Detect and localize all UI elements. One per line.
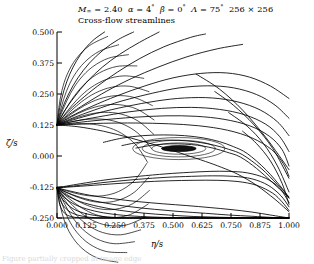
streamline-canvas (57, 32, 289, 218)
figure-caption-cropped: Figure partially cropped at image edge (2, 255, 312, 264)
x-tick-label: 0.375 (133, 221, 155, 230)
lambda-symbol: Λ (191, 4, 197, 14)
y-tick-label: 0.250 (32, 90, 54, 99)
y-tick-label: 0.500 (32, 28, 54, 37)
streamline (57, 98, 289, 136)
figure-cross-flow-streamlines: M∞ = 2.40 α = 4° β = 0° Λ = 75° 256 × 25… (0, 0, 314, 264)
streamline (243, 131, 289, 204)
figure-subtitle: Cross-flow streamlines (78, 15, 175, 25)
y-tick-label: 0.375 (32, 59, 54, 68)
alpha-degree-icon: ° (151, 3, 154, 11)
x-tick-label: 1.000 (278, 221, 300, 230)
figure-title-parameters: M∞ = 2.40 α = 4° β = 0° Λ = 75° 256 × 25… (78, 3, 273, 14)
streamline (57, 171, 289, 202)
alpha-symbol: α (128, 4, 134, 14)
y-tick-label: 0.125 (32, 121, 54, 130)
alpha-value: = 4 (136, 4, 151, 14)
beta-degree-icon: ° (183, 3, 186, 11)
y-axis-tick-labels: 0.5000.3750.2500.1250.000-0.125-0.250 (0, 32, 54, 218)
beta-symbol: β (160, 4, 165, 14)
x-tick-label: 0.500 (162, 221, 184, 230)
x-tick-label: 0.625 (191, 221, 213, 230)
lambda-degree-icon: ° (220, 3, 223, 11)
mach-value: = 2.40 (94, 4, 122, 14)
beta-value: = 0 (168, 4, 183, 14)
grid-size: 256 × 256 (229, 4, 273, 14)
x-tick-label: 0.750 (220, 221, 242, 230)
x-axis-label: η/s (0, 239, 314, 249)
y-tick-label: -0.125 (30, 183, 54, 192)
lambda-value: = 75 (200, 4, 220, 14)
x-tick-label: 0.000 (46, 221, 68, 230)
x-tick-label: 0.875 (249, 221, 271, 230)
y-tick-label: 0.000 (32, 152, 54, 161)
mach-subscript: ∞ (86, 7, 91, 14)
streamline (57, 124, 148, 163)
plot-area (57, 32, 289, 218)
y-axis-label: ζ/s (6, 138, 18, 148)
streamline (57, 125, 289, 212)
x-axis-tick-labels: 0.0000.1250.2500.3750.5000.6250.7500.875… (57, 221, 289, 233)
vortex-core (133, 138, 225, 160)
